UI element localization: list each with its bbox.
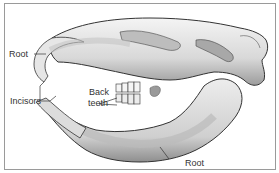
cranium: [34, 18, 268, 85]
label-back-teeth-line2: teeth: [88, 98, 108, 108]
lower-incisor: [36, 98, 86, 138]
label-back-teeth-line1: Back: [89, 87, 109, 97]
skull-illustration: [0, 0, 279, 173]
label-incisors: Incisors: [10, 96, 41, 106]
back-teeth: [116, 82, 140, 104]
label-root-upper: Root: [9, 49, 28, 59]
label-root-lower: Root: [185, 158, 204, 168]
